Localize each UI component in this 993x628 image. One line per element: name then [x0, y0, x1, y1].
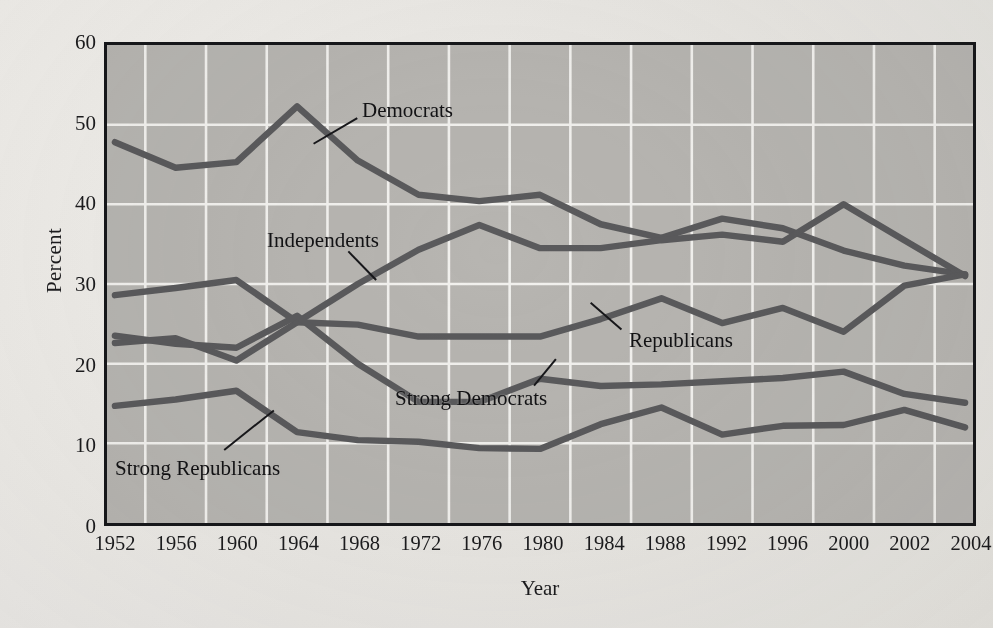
x-axis-tick-label: 1980 — [508, 533, 578, 554]
leader-line — [348, 251, 376, 280]
plot-area: Democrats Independents Republicans Stron… — [107, 45, 973, 523]
series-label-strong-republicans: Strong Republicans — [115, 458, 280, 479]
annotation-leader-lines — [107, 45, 973, 523]
y-axis-tick-label: 10 — [52, 435, 96, 456]
y-axis-title: Percent — [42, 191, 67, 331]
x-axis-tick-label: 1964 — [263, 533, 333, 554]
figure-chart-party-identification: 0102030405060 Percent Democrats Independ… — [0, 0, 993, 628]
series-label-republicans: Republicans — [629, 330, 733, 351]
series-label-strong-democrats: Strong Democrats — [395, 388, 547, 409]
x-axis-tick-label: 1960 — [202, 533, 272, 554]
leader-line — [534, 359, 556, 386]
x-axis-tick-label: 1968 — [325, 533, 395, 554]
x-axis-tick-label: 1956 — [141, 533, 211, 554]
leader-line — [314, 118, 358, 144]
x-axis-tick-label: 2000 — [814, 533, 884, 554]
x-axis-tick-label: 1952 — [80, 533, 150, 554]
x-axis-title: Year — [104, 576, 976, 601]
x-axis-tick-label: 2004 — [936, 533, 993, 554]
x-axis-tick-label: 1984 — [569, 533, 639, 554]
x-axis-ticks: 1952195619601964196819721976198019841988… — [104, 533, 976, 563]
x-axis-tick-label: 1996 — [753, 533, 823, 554]
plot-frame: Democrats Independents Republicans Stron… — [104, 42, 976, 526]
series-label-independents: Independents — [267, 230, 379, 251]
leader-line — [224, 410, 274, 450]
series-label-democrats: Democrats — [362, 100, 453, 121]
y-axis-tick-label: 60 — [52, 32, 96, 53]
x-axis-tick-label: 1988 — [630, 533, 700, 554]
x-axis-tick-label: 1972 — [386, 533, 456, 554]
x-axis-tick-label: 2002 — [875, 533, 945, 554]
x-axis-tick-label: 1976 — [447, 533, 517, 554]
y-axis-tick-label: 20 — [52, 354, 96, 375]
x-axis-tick-label: 1992 — [691, 533, 761, 554]
y-axis-tick-label: 50 — [52, 112, 96, 133]
leader-line — [591, 303, 622, 330]
